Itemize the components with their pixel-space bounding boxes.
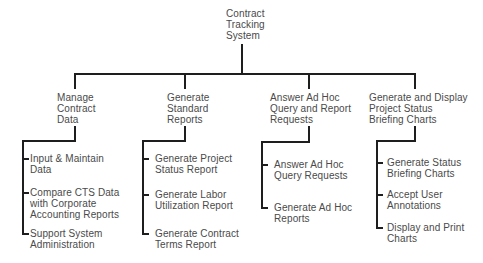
branch-2-spine bbox=[142, 140, 144, 235]
root-connector bbox=[241, 44, 243, 75]
branch-1-connector bbox=[74, 73, 76, 89]
branch-2-connector bbox=[184, 73, 186, 89]
branch-1-label: Manage Contract Data bbox=[57, 92, 96, 125]
branch-4-child-2-tick bbox=[377, 194, 383, 196]
branch-3-spine bbox=[261, 141, 263, 209]
branch-2-child-1-tick bbox=[143, 158, 149, 160]
branch-1-child-3-tick bbox=[23, 233, 29, 235]
branch-3-child-2-tick bbox=[262, 207, 268, 209]
branch-2-label: Generate Standard Reports bbox=[167, 92, 210, 125]
branch-1-child-2-label: Compare CTS Data with Corporate Accounti… bbox=[30, 187, 119, 220]
branch-4-child-3-tick bbox=[377, 227, 383, 229]
branch-3-elbow bbox=[261, 141, 310, 143]
branch-1-elbow bbox=[22, 140, 76, 142]
branch-3-child-2-label: Generate Ad Hoc Reports bbox=[274, 202, 352, 224]
branch-1-child-1-tick bbox=[23, 158, 29, 160]
level1-bus-line bbox=[74, 73, 416, 75]
branch-1-spine bbox=[22, 140, 24, 235]
branch-1-child-2-tick bbox=[23, 192, 29, 194]
branch-4-child-2-label: Accept User Annotations bbox=[387, 189, 443, 211]
branch-2-elbow bbox=[142, 140, 186, 142]
branch-1-child-3-label: Support System Administration bbox=[30, 228, 103, 250]
branch-4-child-1-tick bbox=[377, 162, 383, 164]
branch-3-child-1-label: Answer Ad Hoc Query Requests bbox=[274, 159, 348, 181]
branch-2-child-2-tick bbox=[143, 194, 149, 196]
branch-2-child-3-tick bbox=[143, 233, 149, 235]
branch-2-child-2-label: Generate Labor Utilization Report bbox=[155, 189, 233, 211]
branch-2-child-3-label: Generate Contract Terms Report bbox=[155, 228, 239, 250]
branch-4-child-3-label: Display and Print Charts bbox=[387, 222, 464, 244]
root-node-label: Contract Tracking System bbox=[226, 8, 265, 41]
branch-2-child-1-label: Generate Project Status Report bbox=[155, 153, 232, 175]
branch-3-connector bbox=[308, 73, 310, 89]
branch-4-child-1-label: Generate Status Briefing Charts bbox=[387, 157, 461, 179]
branch-4-spine bbox=[376, 140, 378, 229]
branch-4-label: Generate and Display Project Status Brie… bbox=[369, 92, 468, 125]
branch-3-child-1-tick bbox=[262, 164, 268, 166]
branch-4-connector bbox=[414, 73, 416, 89]
branch-3-label: Answer Ad Hoc Query and Report Requests bbox=[270, 92, 351, 125]
branch-4-elbow bbox=[376, 140, 416, 142]
branch-1-child-1-label: Input & Maintain Data bbox=[30, 153, 104, 175]
